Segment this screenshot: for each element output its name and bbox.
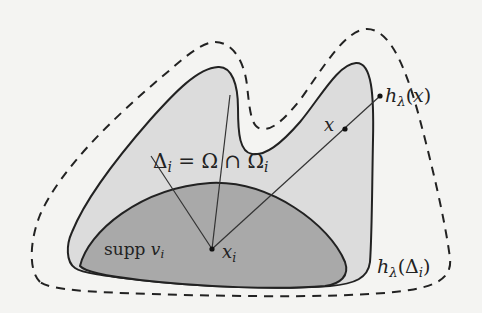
label-x-i: xi bbox=[222, 243, 236, 264]
label-delta-equals-omega-cap-omega-i: Δi = Ω ∩ Ωi bbox=[153, 151, 269, 174]
omega-subscript: i bbox=[264, 159, 268, 175]
close-paren: ) bbox=[423, 255, 430, 277]
supp-word: supp bbox=[104, 239, 151, 259]
h-var: h bbox=[377, 255, 389, 277]
open-paren-delta: (Δ bbox=[398, 255, 419, 277]
lambda-subscript: λ bbox=[397, 94, 405, 109]
h-var: h bbox=[385, 84, 397, 106]
point-x-i bbox=[209, 246, 214, 251]
delta-symbol: Δ bbox=[153, 149, 167, 173]
point-x bbox=[342, 126, 347, 131]
label-h-lambda-x: hλ(x) bbox=[385, 86, 431, 108]
point-h-lambda-x bbox=[377, 93, 382, 98]
x-var: x bbox=[324, 114, 334, 135]
v-var: v bbox=[151, 239, 161, 259]
v-subscript: i bbox=[160, 247, 164, 261]
x-var: x bbox=[222, 241, 232, 262]
equals-omega-cap-omega: = Ω ∩ Ω bbox=[172, 149, 264, 173]
x-arg: x bbox=[413, 84, 424, 106]
label-h-lambda-delta-i: hλ(Δi) bbox=[377, 257, 431, 279]
close-paren: ) bbox=[424, 84, 431, 106]
label-x: x bbox=[324, 116, 334, 134]
open-paren: ( bbox=[406, 84, 413, 106]
label-supp-v-i: supp vi bbox=[104, 241, 164, 261]
lambda-subscript: λ bbox=[389, 265, 397, 280]
x-subscript: i bbox=[232, 250, 236, 265]
